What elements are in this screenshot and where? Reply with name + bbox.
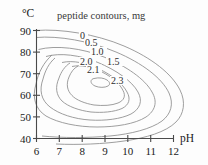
contour-line-level-2.3 <box>91 78 110 87</box>
y-tick-label-90: 90 <box>20 25 32 37</box>
y-tick-label-50: 50 <box>20 111 32 123</box>
y-tick-label-80: 80 <box>20 46 32 58</box>
contour-label-2.3: 2.3 <box>111 75 124 86</box>
x-tick-label-7: 7 <box>57 145 63 157</box>
x-axis-tick-labels: 6 7 8 9 10 11 12 <box>34 145 179 157</box>
x-tick-label-6: 6 <box>34 145 40 157</box>
x-tick-label-10: 10 <box>122 145 134 157</box>
x-tick-label-12: 12 <box>168 145 179 157</box>
contour-label-1.5: 1.5 <box>107 56 120 67</box>
y-axis-tick-labels: 40 50 60 70 80 90 <box>20 25 32 145</box>
y-tick-label-70: 70 <box>20 68 32 80</box>
x-tick-label-9: 9 <box>102 145 108 157</box>
plot-axes <box>33 29 174 142</box>
contour-label-2.1: 2.1 <box>87 64 100 75</box>
y-tick-label-60: 60 <box>20 89 32 101</box>
y-axis-title: °C <box>22 7 35 19</box>
x-tick-label-11: 11 <box>145 145 156 157</box>
contour-plot-canvas: 0 0.5 1.0 1.5 2.0 2.1 2.3 <box>0 0 208 165</box>
chart-title: peptide contours, mg <box>57 10 146 21</box>
x-axis-title: pH <box>180 132 194 145</box>
y-tick-label-40: 40 <box>20 133 32 145</box>
contour-curves <box>34 30 183 144</box>
contour-label-1.0: 1.0 <box>91 46 104 57</box>
x-tick-label-8: 8 <box>79 145 85 157</box>
contour-plot-figure: 0 0.5 1.0 1.5 2.0 2.1 2.3 <box>0 0 208 165</box>
